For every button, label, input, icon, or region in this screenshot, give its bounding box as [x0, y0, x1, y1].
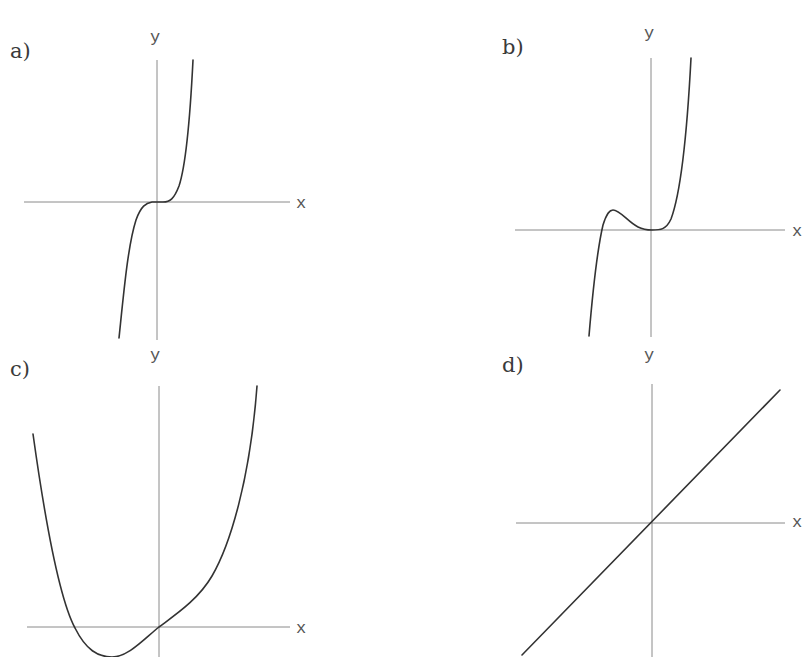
panel-label: d): [502, 353, 524, 377]
y-axis-label: y: [644, 24, 654, 43]
x-axis-label: x: [792, 513, 802, 532]
y-axis-label: y: [150, 28, 160, 47]
y-axis-label: y: [150, 346, 160, 365]
y-axis-label: y: [644, 346, 654, 365]
function-curve: [119, 60, 193, 338]
panel-label: a): [10, 39, 31, 63]
x-axis-label: x: [792, 222, 802, 241]
panel-label: c): [10, 357, 30, 381]
panel-d: d) y x: [502, 346, 802, 657]
figure: a) y x b) y x c) y x d) y x: [0, 0, 807, 657]
panel-b: b) y x: [502, 24, 802, 337]
x-axis-label: x: [296, 619, 306, 638]
x-axis-label: x: [296, 194, 306, 213]
function-curve: [589, 58, 691, 336]
panel-a: a) y x: [10, 28, 306, 340]
panel-c: c) y x: [10, 346, 306, 657]
function-curve: [33, 386, 257, 657]
panel-label: b): [502, 35, 524, 59]
